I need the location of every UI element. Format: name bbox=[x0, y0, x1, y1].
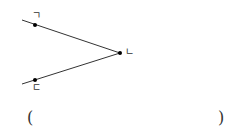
label-vertex: ㄴ bbox=[125, 47, 134, 57]
point-vertex bbox=[118, 51, 122, 55]
label-top: ㄱ bbox=[32, 11, 41, 21]
answer-close-paren: ) bbox=[218, 110, 224, 126]
answer-open-paren: ( bbox=[27, 110, 33, 126]
point-top bbox=[33, 23, 37, 27]
answer-blank[interactable] bbox=[40, 110, 210, 128]
label-bottom: ㄷ bbox=[32, 83, 41, 93]
